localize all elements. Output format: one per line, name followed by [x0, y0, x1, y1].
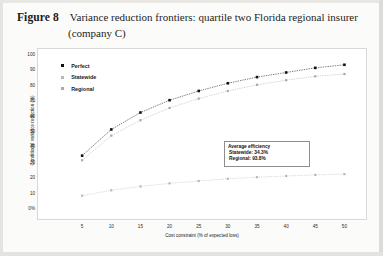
x-tick-label: 30 — [218, 224, 238, 229]
data-point-marker — [285, 79, 287, 81]
x-tick-label: 50 — [334, 224, 354, 229]
legend-marker-icon — [61, 64, 64, 67]
data-point-marker — [139, 185, 141, 187]
legend-item-label: Perfect — [71, 63, 89, 69]
data-point-marker — [227, 90, 229, 92]
data-point-marker — [168, 182, 170, 184]
legend-item-regional: Regional — [61, 83, 131, 95]
page-edge-left — [0, 0, 3, 256]
page-edge-top — [0, 0, 383, 3]
data-point-marker — [81, 159, 83, 161]
x-tick-label: 5 — [72, 224, 92, 229]
figure-caption: Figure 8Variance reduction frontiers: qu… — [17, 9, 369, 40]
data-point-marker — [198, 98, 200, 100]
x-axis-title: Cost constraint (% of expected loss) — [37, 233, 367, 238]
data-point-marker — [285, 71, 288, 74]
data-point-marker — [168, 99, 171, 102]
legend-item-label: Regional — [71, 86, 94, 92]
data-point-marker — [256, 76, 259, 79]
page-edge-bottom — [0, 252, 383, 256]
data-point-marker — [256, 84, 258, 86]
figure-title-line-1: Variance reduction frontiers: quartile t… — [70, 11, 358, 23]
data-point-marker — [168, 107, 170, 109]
x-tick-label: 10 — [101, 224, 121, 229]
data-point-marker — [227, 82, 230, 85]
chart-legend: PerfectStatewideRegional — [61, 60, 131, 95]
data-point-marker — [139, 111, 142, 114]
data-point-marker — [197, 90, 200, 93]
data-point-marker — [81, 195, 83, 197]
x-tick-label: 20 — [160, 224, 180, 229]
y-axis-title-holder: Conditional variance reduction (%) — [18, 40, 28, 220]
x-tick-label: 40 — [276, 224, 296, 229]
data-point-marker — [343, 173, 345, 175]
data-point-marker — [110, 128, 113, 131]
data-point-marker — [343, 73, 345, 75]
y-axis-title: Conditional variance reduction (%) — [30, 71, 35, 191]
x-tick-label: 35 — [247, 224, 267, 229]
data-point-marker — [227, 178, 229, 180]
data-point-marker — [110, 135, 112, 137]
legend-item-perfect: Perfect — [61, 60, 131, 72]
data-point-marker — [314, 67, 317, 70]
data-point-marker — [343, 63, 346, 66]
data-point-marker — [285, 175, 287, 177]
figure-title-line-2: (company C) — [68, 27, 126, 39]
data-point-marker — [81, 154, 84, 157]
data-point-marker — [139, 119, 141, 121]
data-point-marker — [110, 189, 112, 191]
legend-marker-icon — [61, 87, 64, 90]
average-efficiency-annotation: Average efficiency Statewide: 34.3% Regi… — [224, 141, 310, 167]
data-point-marker — [314, 174, 316, 176]
series-line — [82, 174, 344, 196]
data-point-marker — [198, 180, 200, 182]
legend-marker-icon — [61, 76, 64, 79]
legend-item-statewide: Statewide — [61, 72, 131, 84]
x-tick-label: 25 — [189, 224, 209, 229]
series-statewide — [81, 173, 345, 197]
x-tick-label: 45 — [305, 224, 325, 229]
data-point-marker — [314, 75, 316, 77]
annotation-regional: Regional: 93.8% — [228, 156, 306, 162]
page-edge-right — [379, 0, 383, 256]
data-point-marker — [256, 176, 258, 178]
figure-panel: Figure 8Variance reduction frontiers: qu… — [0, 0, 383, 256]
x-tick-label: 15 — [130, 224, 150, 229]
legend-item-label: Statewide — [71, 74, 96, 80]
